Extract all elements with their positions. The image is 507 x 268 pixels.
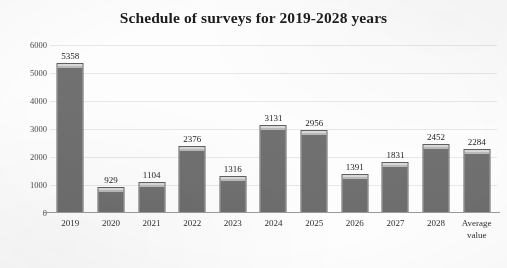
- x-axis-tick-label: 2024: [251, 218, 297, 230]
- bar-slot: 2284: [456, 45, 497, 213]
- bar[interactable]: [97, 187, 124, 213]
- bar-slot: 929: [91, 45, 132, 213]
- bar[interactable]: [57, 63, 84, 213]
- bar-value-label: 2284: [468, 137, 486, 147]
- bar-value-label: 2956: [305, 118, 323, 128]
- plot-area: 5358929110423761316313129561391183124522…: [50, 45, 497, 213]
- bar-slot: 3131: [253, 45, 294, 213]
- x-axis-tick-label: 2021: [129, 218, 175, 230]
- bar[interactable]: [382, 162, 409, 213]
- bar-slot: 2376: [172, 45, 213, 213]
- x-axis-tick-label: 2028: [413, 218, 459, 230]
- x-axis-tick-label: 2022: [169, 218, 215, 230]
- y-axis: 0100020003000400050006000: [0, 45, 47, 213]
- bar-slot: 1391: [334, 45, 375, 213]
- x-axis-tick-label: 2019: [47, 218, 93, 230]
- x-axis-tick-label: 2027: [372, 218, 418, 230]
- bar-value-label: 3131: [264, 113, 282, 123]
- y-axis-tick-label: 3000: [3, 124, 47, 134]
- y-axis-tick-label: 5000: [3, 68, 47, 78]
- y-axis-tick-label: 4000: [3, 96, 47, 106]
- x-axis-line: [44, 212, 500, 213]
- chart-canvas: Schedule of surveys for 2019-2028 years …: [0, 0, 507, 268]
- bar-value-label: 1104: [143, 170, 161, 180]
- x-axis: 2019202020212022202320242025202620272028…: [50, 218, 497, 262]
- x-axis-tick-label: 2025: [291, 218, 337, 230]
- chart-title: Schedule of surveys for 2019-2028 years: [0, 9, 507, 27]
- bar-slot: 1104: [131, 45, 172, 213]
- bar[interactable]: [423, 144, 450, 213]
- y-axis-tick-label: 0: [3, 208, 47, 218]
- x-axis-tick-label: 2023: [210, 218, 256, 230]
- bar-slot: 2956: [294, 45, 335, 213]
- bar-value-label: 2376: [183, 134, 201, 144]
- bar[interactable]: [463, 149, 490, 213]
- bar[interactable]: [179, 146, 206, 213]
- bar-value-label: 1391: [346, 162, 364, 172]
- bar-slot: 5358: [50, 45, 91, 213]
- bar-slot: 2452: [416, 45, 457, 213]
- bar[interactable]: [219, 176, 246, 213]
- bar-value-label: 1316: [224, 164, 242, 174]
- bar[interactable]: [260, 125, 287, 213]
- x-axis-tick-label: 2020: [88, 218, 134, 230]
- x-axis-tick-label: Average value: [454, 218, 500, 241]
- bar-value-label: 1831: [386, 150, 404, 160]
- y-axis-tick-label: 2000: [3, 152, 47, 162]
- y-axis-tick-label: 1000: [3, 180, 47, 190]
- bar-value-label: 5358: [61, 51, 79, 61]
- bar[interactable]: [301, 130, 328, 213]
- y-axis-tick-label: 6000: [3, 40, 47, 50]
- x-axis-tick-label: 2026: [332, 218, 378, 230]
- bar[interactable]: [138, 182, 165, 213]
- bar-value-label: 929: [104, 175, 118, 185]
- bar-slot: 1316: [213, 45, 254, 213]
- bar-slot: 1831: [375, 45, 416, 213]
- bar-value-label: 2452: [427, 132, 445, 142]
- bar[interactable]: [341, 174, 368, 213]
